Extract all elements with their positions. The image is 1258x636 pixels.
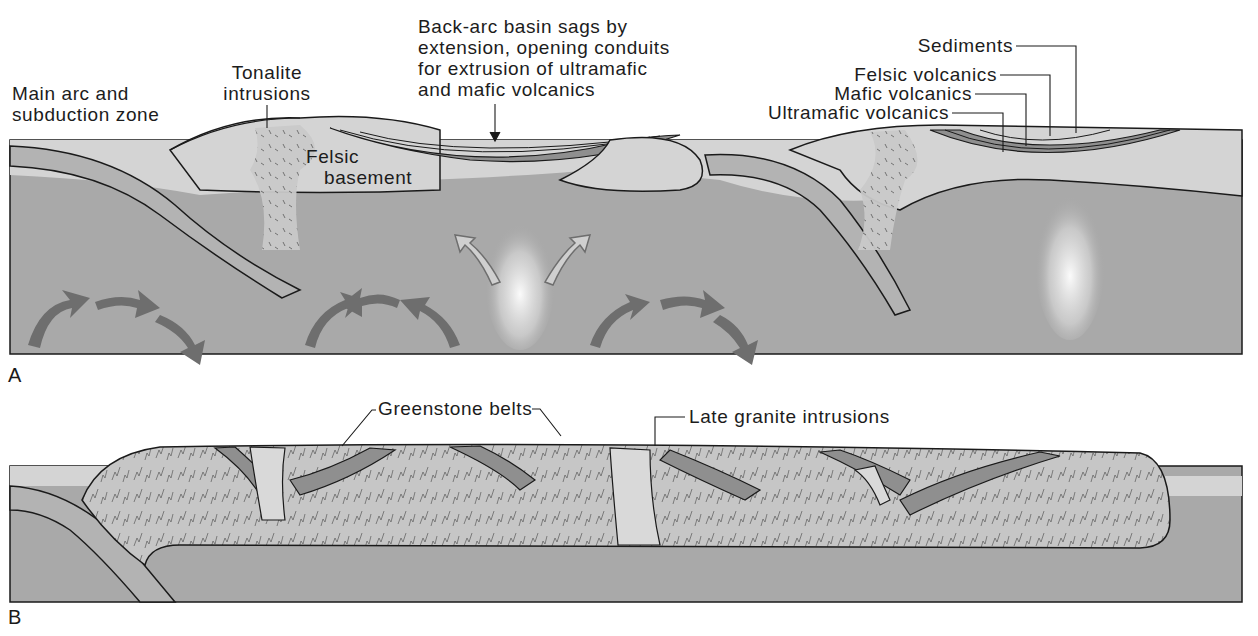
label-back-arc-line2: extension, opening conduits [418, 37, 670, 58]
label-late-granite-intrusions: Late granite intrusions [689, 406, 890, 427]
label-felsic-basement: Felsic basement [306, 146, 412, 188]
label-main-arc-line1: Main arc and [12, 83, 159, 104]
label-back-arc-line1: Back-arc basin sags by [418, 16, 670, 37]
label-ultramafic-volcanics: Ultramafic volcanics [740, 102, 949, 123]
mantle-plume-right [1035, 180, 1105, 340]
label-felsic-basement-line2: basement [306, 167, 412, 188]
label-back-arc-line3: for extrusion of ultramafic [418, 58, 670, 79]
label-sediments: Sediments [880, 35, 1013, 56]
label-back-arc-line4: and mafic volcanics [418, 79, 670, 100]
label-main-arc: Main arc and subduction zone [12, 83, 159, 125]
label-tonalite-line2: intrusions [212, 83, 322, 104]
panel-letter-a: A [8, 364, 21, 387]
label-tonalite-intrusions: Tonalite intrusions [212, 62, 322, 104]
panel-letter-b: B [8, 606, 21, 629]
label-felsic-basement-line1: Felsic [306, 146, 412, 167]
label-main-arc-line2: subduction zone [12, 104, 159, 125]
label-back-arc-basin: Back-arc basin sags by extension, openin… [418, 16, 670, 100]
panel-b-diagram [10, 409, 1242, 602]
label-tonalite-line1: Tonalite [212, 62, 322, 83]
label-mafic-volcanics: Mafic volcanics [800, 83, 972, 104]
label-greenstone-belts: Greenstone belts [378, 398, 532, 419]
label-felsic-volcanics: Felsic volcanics [820, 64, 997, 85]
